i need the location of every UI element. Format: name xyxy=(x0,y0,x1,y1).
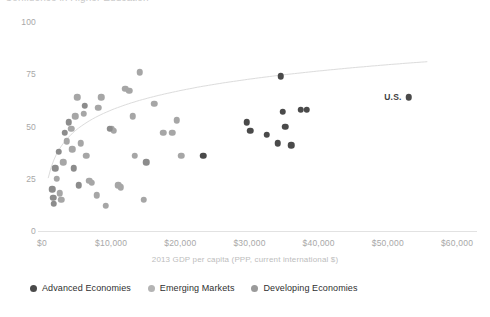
data-point[interactable] xyxy=(62,130,69,137)
data-point[interactable] xyxy=(140,196,147,203)
data-point[interactable] xyxy=(52,165,59,172)
data-point[interactable] xyxy=(102,203,109,210)
x-tick-label: $10,000 xyxy=(95,238,127,248)
data-point[interactable] xyxy=(178,153,185,160)
data-point[interactable] xyxy=(136,69,143,76)
data-point[interactable] xyxy=(98,94,105,101)
legend-item-label: Emerging Markets xyxy=(160,283,235,293)
data-point[interactable] xyxy=(405,94,412,101)
data-point[interactable] xyxy=(55,148,62,155)
data-point[interactable] xyxy=(200,153,207,160)
data-point[interactable] xyxy=(75,182,82,189)
data-point[interactable] xyxy=(247,127,254,134)
data-point[interactable] xyxy=(264,132,271,139)
y-tick-label: 25 xyxy=(0,174,36,184)
data-point[interactable] xyxy=(107,125,114,132)
x-tick-label: $50,000 xyxy=(372,238,404,248)
data-point[interactable] xyxy=(89,180,96,187)
data-point[interactable] xyxy=(58,196,65,203)
data-point[interactable] xyxy=(51,201,58,208)
data-point[interactable] xyxy=(169,130,176,137)
data-point[interactable] xyxy=(288,142,295,149)
legend-item-label: Developing Economies xyxy=(263,283,357,293)
data-point[interactable] xyxy=(77,140,84,147)
data-point[interactable] xyxy=(66,119,73,126)
legend-dot-icon xyxy=(251,285,258,292)
data-point[interactable] xyxy=(68,125,75,132)
data-point[interactable] xyxy=(277,73,284,80)
y-tick-label: 0 xyxy=(0,226,36,236)
data-point[interactable] xyxy=(69,146,76,153)
data-point[interactable] xyxy=(151,100,158,107)
data-point[interactable] xyxy=(279,109,286,116)
x-tick-label: $20,000 xyxy=(164,238,196,248)
data-point[interactable] xyxy=(160,130,167,137)
trendline xyxy=(0,0,490,317)
scatter-chart: Confidence in Higher Education 025507510… xyxy=(0,0,490,317)
trendline-path xyxy=(48,62,427,178)
x-axis-label: 2013 GDP per capita (PPP, current intern… xyxy=(0,255,490,264)
annotation-label: U.S. xyxy=(384,92,401,102)
data-point[interactable] xyxy=(118,184,125,191)
x-tick-label: $40,000 xyxy=(303,238,335,248)
data-point[interactable] xyxy=(53,176,60,183)
legend-item-label: Advanced Economies xyxy=(42,283,131,293)
y-tick-label: 100 xyxy=(0,17,36,27)
data-point[interactable] xyxy=(64,138,71,145)
data-point[interactable] xyxy=(95,104,102,111)
x-axis-line xyxy=(38,231,477,232)
x-tick-label: $0 xyxy=(37,238,47,248)
data-point[interactable] xyxy=(304,107,311,114)
data-point[interactable] xyxy=(83,153,90,160)
data-point[interactable] xyxy=(126,88,133,95)
data-point[interactable] xyxy=(80,111,87,118)
data-point[interactable] xyxy=(131,153,138,160)
y-tick-label: 50 xyxy=(0,122,36,132)
y-tick-label: 75 xyxy=(0,69,36,79)
data-point[interactable] xyxy=(143,159,150,166)
data-point[interactable] xyxy=(49,186,56,193)
x-tick-label: $30,000 xyxy=(233,238,265,248)
legend-dot-icon xyxy=(30,285,37,292)
data-point[interactable] xyxy=(275,140,282,147)
data-point[interactable] xyxy=(174,117,181,124)
legend-item[interactable]: Developing Economies xyxy=(251,283,357,293)
legend-dot-icon xyxy=(148,285,155,292)
legend-item[interactable]: Advanced Economies xyxy=(30,283,131,293)
plot-area: 0255075100 $0$10,000$20,000$30,000$40,00… xyxy=(0,0,490,317)
data-point[interactable] xyxy=(243,119,250,126)
chart-legend: Advanced EconomiesEmerging MarketsDevelo… xyxy=(30,283,358,293)
x-tick-label: $60,000 xyxy=(441,238,473,248)
data-point[interactable] xyxy=(282,123,289,130)
data-point[interactable] xyxy=(74,94,81,101)
data-point[interactable] xyxy=(60,159,67,166)
data-point[interactable] xyxy=(129,113,136,120)
data-point[interactable] xyxy=(82,102,89,109)
data-point[interactable] xyxy=(71,165,78,172)
data-point[interactable] xyxy=(72,113,79,120)
legend-item[interactable]: Emerging Markets xyxy=(148,283,235,293)
data-point[interactable] xyxy=(93,192,100,199)
